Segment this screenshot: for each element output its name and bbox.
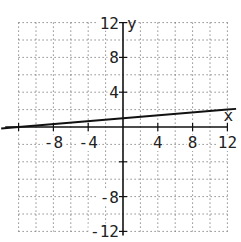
y-tick-label: 8 xyxy=(109,48,119,67)
y-tick-label: 12 xyxy=(100,14,119,33)
y-tick-label: -12 xyxy=(90,222,119,241)
y-tick-label: -8 xyxy=(100,188,119,207)
coordinate-plane: -8-448121284-8-12yx xyxy=(0,0,241,242)
x-tick-label: 8 xyxy=(188,133,198,152)
x-tick-label: -8 xyxy=(44,133,63,152)
y-axis-label: y xyxy=(127,14,137,33)
x-tick-label: -4 xyxy=(79,133,98,152)
y-tick-label: 4 xyxy=(109,83,119,102)
x-tick-label: 12 xyxy=(218,133,237,152)
x-tick-label: 4 xyxy=(153,133,163,152)
